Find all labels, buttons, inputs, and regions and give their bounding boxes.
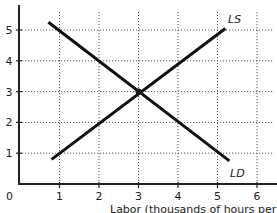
x-tick-label: 3 bbox=[135, 190, 142, 203]
x-axis-title: Labor (thousands of hours per day) bbox=[110, 203, 277, 213]
x-tick-label: 4 bbox=[175, 190, 182, 203]
x-tick-label: 5 bbox=[214, 190, 221, 203]
ls-curve-label: LS bbox=[228, 13, 241, 26]
labor-market-chart: 123456 12345 0 LS LD Labor (thousands of… bbox=[0, 0, 277, 213]
equilibrium-point bbox=[136, 89, 142, 95]
ld-curve-label: LD bbox=[230, 167, 245, 180]
y-tick-label: 4 bbox=[6, 55, 13, 68]
x-tick-label: 1 bbox=[56, 190, 63, 203]
axes bbox=[18, 5, 277, 185]
y-tick-label: 5 bbox=[6, 24, 13, 37]
y-tick-label: 2 bbox=[6, 116, 13, 129]
origin-label: 0 bbox=[6, 190, 13, 203]
x-tick-label: 6 bbox=[254, 190, 261, 203]
x-tick-labels: 123456 bbox=[56, 182, 261, 203]
y-tick-label: 3 bbox=[6, 86, 13, 99]
x-tick-label: 2 bbox=[96, 190, 103, 203]
y-tick-label: 1 bbox=[6, 147, 13, 160]
